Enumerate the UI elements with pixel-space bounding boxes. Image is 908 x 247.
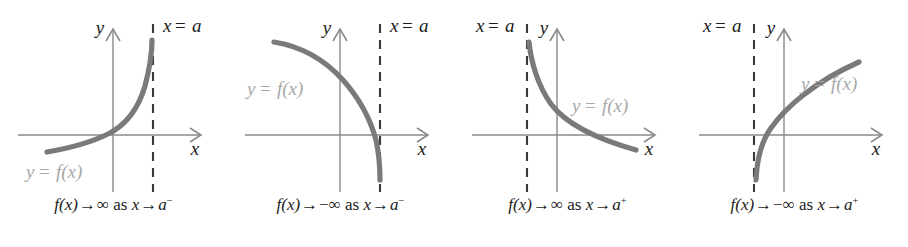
- caption-x: x: [817, 195, 825, 214]
- caption-as: as: [345, 195, 359, 214]
- svg-text:a: a: [505, 15, 515, 36]
- caption-fx: f(x): [508, 195, 532, 214]
- x-axis-label: x: [644, 138, 654, 159]
- caption-a: a: [844, 195, 853, 214]
- caption-as: as: [567, 195, 581, 214]
- svg-text:x: x: [162, 15, 172, 36]
- x-axis: [472, 128, 655, 142]
- x-axis-label: x: [417, 138, 427, 159]
- svg-text:=: =: [488, 15, 499, 36]
- svg-text:=: =: [402, 15, 413, 36]
- asymptote-label: x = a: [389, 15, 429, 36]
- caption-limit: ∞: [551, 195, 563, 214]
- asymptote-label: x = a: [475, 15, 515, 36]
- panel-3-plot: y x x = a y = f(x): [454, 0, 681, 200]
- caption-x: x: [363, 195, 371, 214]
- panel-1-caption: f(x)→∞ as x→a−: [0, 196, 227, 213]
- svg-text:y: y: [570, 95, 581, 116]
- svg-text:=: =: [715, 15, 726, 36]
- svg-text:y: y: [245, 78, 256, 99]
- caption-as: as: [799, 195, 813, 214]
- y-axis: [333, 29, 347, 192]
- caption-arrow-1: →: [754, 195, 773, 214]
- caption-a: a: [390, 195, 399, 214]
- svg-text:x: x: [475, 15, 485, 36]
- svg-text:x: x: [389, 15, 399, 36]
- svg-text:=: =: [814, 73, 825, 94]
- svg-text:=: =: [260, 78, 271, 99]
- panel-limit-plus-infinity-from-right: y x x = a y = f(x) f(x)→∞ as x→a+: [454, 0, 681, 247]
- svg-text:f(x): f(x): [602, 95, 628, 117]
- svg-text:=: =: [175, 15, 186, 36]
- panel-4-caption: f(x)→−∞ as x→a+: [681, 196, 908, 213]
- caption-limit: −∞: [773, 195, 795, 214]
- caption-limit: ∞: [97, 195, 109, 214]
- panel-limit-minus-infinity-from-right: y x x = a y = f(x) f(x)→−∞ as x→a+: [681, 0, 908, 247]
- caption-side: −: [399, 195, 405, 206]
- y-axis-label: y: [321, 17, 332, 38]
- x-axis: [245, 128, 428, 142]
- panel-1-plot: y x x = a y = f(x): [0, 0, 227, 200]
- y-axis: [106, 29, 120, 192]
- caption-fx: f(x): [54, 195, 78, 214]
- svg-text:y: y: [24, 161, 35, 182]
- y-axis-label: y: [94, 17, 105, 38]
- svg-text:x: x: [702, 15, 712, 36]
- caption-fx: f(x): [277, 195, 301, 214]
- caption-fx: f(x): [731, 195, 755, 214]
- panel-3-caption: f(x)→∞ as x→a+: [454, 196, 681, 213]
- caption-a: a: [612, 195, 621, 214]
- svg-text:f(x): f(x): [56, 161, 82, 183]
- caption-arrow-2: →: [593, 195, 612, 214]
- asymptote-figure: y x x = a y = f(x) f(x)→∞ as x→a−: [0, 0, 908, 247]
- svg-text:f(x): f(x): [277, 78, 303, 100]
- y-axis-label: y: [538, 17, 549, 38]
- caption-a: a: [158, 195, 167, 214]
- svg-text:=: =: [585, 95, 596, 116]
- function-label: y = f(x): [24, 161, 82, 183]
- panel-2-plot: y x x = a y = f(x): [227, 0, 454, 200]
- svg-text:=: =: [39, 161, 50, 182]
- asymptote-label: x = a: [162, 15, 202, 36]
- caption-arrow-2: →: [139, 195, 158, 214]
- caption-side: −: [167, 195, 173, 206]
- x-axis: [699, 128, 882, 142]
- asymptote-label: x = a: [702, 15, 742, 36]
- panel-limit-plus-infinity-from-left: y x x = a y = f(x) f(x)→∞ as x→a−: [0, 0, 227, 247]
- caption-side: +: [853, 195, 859, 206]
- svg-text:y: y: [799, 73, 810, 94]
- svg-text:a: a: [732, 15, 742, 36]
- caption-arrow-1: →: [300, 195, 319, 214]
- function-curve: [274, 42, 380, 180]
- x-axis-label: x: [871, 138, 881, 159]
- svg-text:a: a: [419, 15, 429, 36]
- caption-side: +: [621, 195, 627, 206]
- x-axis-label: x: [190, 138, 200, 159]
- svg-text:f(x): f(x): [831, 73, 857, 95]
- caption-arrow-1: →: [78, 195, 97, 214]
- function-label: y = f(x): [570, 95, 628, 117]
- panel-limit-minus-infinity-from-left: y x x = a y = f(x) f(x)→−∞ as x→a−: [227, 0, 454, 247]
- function-label: y = f(x): [245, 78, 303, 100]
- panel-4-plot: y x x = a y = f(x): [681, 0, 908, 200]
- y-axis-label: y: [765, 17, 776, 38]
- caption-arrow-2: →: [371, 195, 390, 214]
- caption-arrow-2: →: [825, 195, 844, 214]
- caption-as: as: [113, 195, 127, 214]
- caption-arrow-1: →: [532, 195, 551, 214]
- caption-limit: −∞: [319, 195, 341, 214]
- panel-2-caption: f(x)→−∞ as x→a−: [227, 196, 454, 213]
- svg-text:a: a: [192, 15, 202, 36]
